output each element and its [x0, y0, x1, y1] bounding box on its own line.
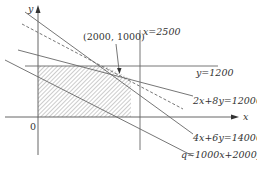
lp-diagram: y x 0 (2000, 1000) x=2500 y=1200 2x+8y=1… — [0, 0, 257, 169]
x-axis-label: x — [243, 111, 249, 122]
y-axis-label: y — [27, 3, 34, 14]
label-2x8y: 2x+8y=12000 — [192, 95, 257, 106]
optimal-point-label: (2000, 1000) — [83, 31, 145, 42]
feasible-region — [38, 66, 131, 117]
label-4x6y: 4x+6y=14000 — [192, 132, 257, 143]
y-axis-arrow-icon — [36, 5, 41, 13]
label-objective: q=1000x+2000y — [181, 149, 257, 160]
label-y-1200: y=1200 — [195, 67, 234, 78]
origin-label: 0 — [30, 121, 36, 132]
x-axis-arrow-icon — [231, 115, 239, 120]
label-x-2500: x=2500 — [143, 26, 181, 37]
